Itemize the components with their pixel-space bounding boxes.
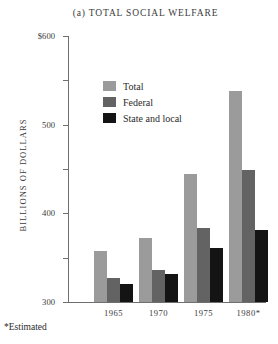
y-tick-label: 500 (42, 120, 55, 130)
legend-swatch-icon (103, 113, 116, 123)
bar (165, 274, 178, 302)
legend-item: Federal (103, 94, 182, 110)
y-tick-label: 300 (42, 297, 55, 307)
bar (152, 270, 165, 302)
legend-label: State and local (123, 113, 182, 124)
bar (120, 284, 133, 302)
bar (255, 230, 268, 302)
x-axis-label: 1980* (219, 308, 278, 318)
bar (229, 91, 242, 302)
chart-footnote: *Estimated (4, 322, 47, 332)
legend-swatch-icon (103, 81, 116, 91)
bar (94, 251, 107, 302)
x-axis-line (68, 302, 266, 303)
bar (242, 170, 255, 302)
legend-label: Total (123, 81, 143, 92)
y-axis-title: BILLIONS OF DOLLARS (18, 100, 28, 250)
y-tick-mark: 100 (63, 258, 68, 259)
y-tick-mark: 300 (63, 169, 68, 170)
bar (197, 228, 210, 302)
legend-label: Federal (123, 97, 153, 108)
bar (107, 278, 120, 302)
chart-title: (a) TOTAL SOCIAL WELFARE (0, 8, 277, 18)
legend-item: Total (103, 78, 182, 94)
legend-swatch-icon (103, 97, 116, 107)
bar (184, 174, 197, 302)
bar (210, 248, 223, 302)
bar (139, 238, 152, 302)
chart-legend: TotalFederalState and local (103, 78, 182, 126)
y-tick-mark: 200 (63, 213, 68, 214)
y-tick-mark: 0 (63, 302, 68, 303)
y-tick-mark: $600 (63, 36, 68, 37)
legend-item: State and local (103, 110, 182, 126)
y-tick-mark: 500 (63, 80, 68, 81)
plot-area: 0100200300400500$600 1965197019751980* (68, 36, 266, 303)
y-tick-mark: 400 (63, 125, 68, 126)
y-axis-line (68, 36, 69, 303)
y-tick-label: $600 (38, 31, 55, 41)
y-tick-label: 400 (42, 208, 55, 218)
